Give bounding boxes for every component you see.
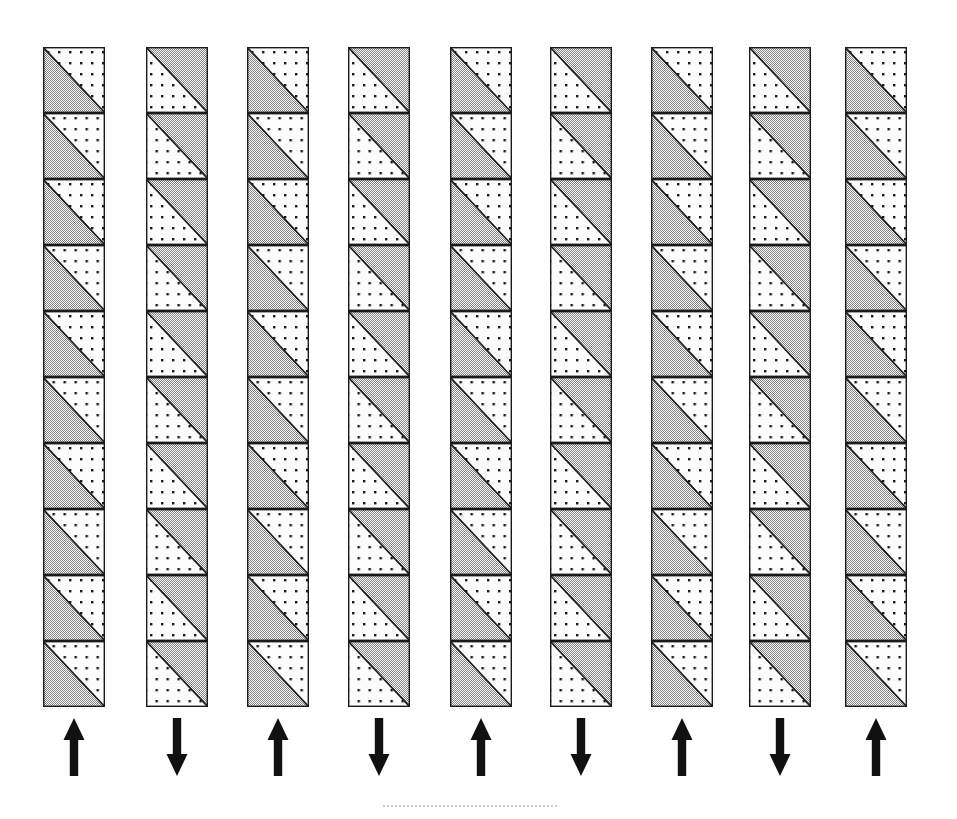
domain-cell: [550, 245, 612, 311]
domain-cell: [247, 509, 309, 575]
domain-cell: [651, 47, 713, 113]
domain-cell: [348, 575, 410, 641]
domain-cell: [749, 641, 811, 707]
domain-cell: [450, 641, 512, 707]
domain-column-1[interactable]: [43, 47, 105, 707]
domain-cell: [43, 575, 105, 641]
domain-cell: [348, 245, 410, 311]
spin-arrow-up-5[interactable]: [468, 718, 494, 776]
domain-cell: [651, 641, 713, 707]
domain-cell: [43, 179, 105, 245]
domain-cell: [43, 443, 105, 509]
domain-cell: [43, 245, 105, 311]
domain-cell: [348, 377, 410, 443]
domain-cell: [845, 377, 907, 443]
domain-column-7[interactable]: [651, 47, 713, 707]
domain-cell: [749, 245, 811, 311]
domain-cell: [845, 443, 907, 509]
spin-arrow-up-9[interactable]: [863, 718, 889, 776]
spin-arrow-down-8[interactable]: [767, 718, 793, 776]
domain-cell: [146, 245, 208, 311]
spin-arrow-up-7[interactable]: [669, 718, 695, 776]
domain-cell: [845, 47, 907, 113]
domain-cell: [845, 509, 907, 575]
domain-cell: [550, 47, 612, 113]
domain-cell: [845, 575, 907, 641]
domain-cell: [651, 509, 713, 575]
domain-cell: [749, 509, 811, 575]
domain-cell: [348, 47, 410, 113]
domain-cell: [845, 311, 907, 377]
spin-arrow-up-1[interactable]: [61, 718, 87, 776]
domain-cell: [550, 443, 612, 509]
domain-cell: [550, 509, 612, 575]
domain-cell: [550, 311, 612, 377]
domain-column-6[interactable]: [550, 47, 612, 707]
columns-layer: [0, 0, 957, 819]
domain-cell: [845, 113, 907, 179]
domain-cell: [247, 47, 309, 113]
domain-cell: [550, 179, 612, 245]
domain-cell: [749, 113, 811, 179]
domain-cell: [146, 443, 208, 509]
domain-cell: [651, 377, 713, 443]
domain-cell: [348, 641, 410, 707]
domain-cell: [348, 443, 410, 509]
domain-cell: [146, 113, 208, 179]
domain-cell: [749, 575, 811, 641]
domain-column-8[interactable]: [749, 47, 811, 707]
domain-cell: [43, 377, 105, 443]
domain-cell: [550, 377, 612, 443]
domain-cell: [247, 443, 309, 509]
domain-cell: [247, 641, 309, 707]
figure-canvas: [0, 0, 957, 819]
domain-cell: [450, 575, 512, 641]
domain-cell: [651, 443, 713, 509]
domain-cell: [43, 311, 105, 377]
domain-cell: [550, 575, 612, 641]
domain-cell: [450, 179, 512, 245]
domain-cell: [550, 641, 612, 707]
domain-cell: [450, 443, 512, 509]
domain-cell: [247, 377, 309, 443]
domain-cell: [146, 575, 208, 641]
domain-column-2[interactable]: [146, 47, 208, 707]
domain-cell: [247, 575, 309, 641]
domain-cell: [247, 245, 309, 311]
domain-cell: [43, 509, 105, 575]
domain-cell: [651, 179, 713, 245]
domain-column-4[interactable]: [348, 47, 410, 707]
domain-column-5[interactable]: [450, 47, 512, 707]
domain-cell: [749, 443, 811, 509]
domain-cell: [146, 311, 208, 377]
baseline-dotted-rule: [383, 805, 558, 807]
domain-cell: [146, 179, 208, 245]
domain-cell: [146, 47, 208, 113]
spin-arrow-up-3[interactable]: [265, 718, 291, 776]
domain-cell: [845, 641, 907, 707]
domain-cell: [450, 245, 512, 311]
domain-cell: [348, 311, 410, 377]
domain-cell: [550, 113, 612, 179]
domain-cell: [450, 311, 512, 377]
domain-cell: [43, 47, 105, 113]
domain-column-9[interactable]: [845, 47, 907, 707]
domain-cell: [651, 245, 713, 311]
domain-cell: [749, 311, 811, 377]
spin-arrow-down-6[interactable]: [568, 718, 594, 776]
domain-cell: [146, 641, 208, 707]
domain-cell: [348, 509, 410, 575]
domain-cell: [247, 179, 309, 245]
domain-cell: [43, 641, 105, 707]
domain-cell: [845, 179, 907, 245]
domain-cell: [450, 509, 512, 575]
spin-arrow-down-4[interactable]: [366, 718, 392, 776]
domain-cell: [651, 311, 713, 377]
domain-cell: [146, 509, 208, 575]
spin-arrow-down-2[interactable]: [164, 718, 190, 776]
domain-cell: [450, 377, 512, 443]
domain-cell: [450, 113, 512, 179]
domain-column-3[interactable]: [247, 47, 309, 707]
domain-cell: [247, 311, 309, 377]
domain-cell: [749, 179, 811, 245]
